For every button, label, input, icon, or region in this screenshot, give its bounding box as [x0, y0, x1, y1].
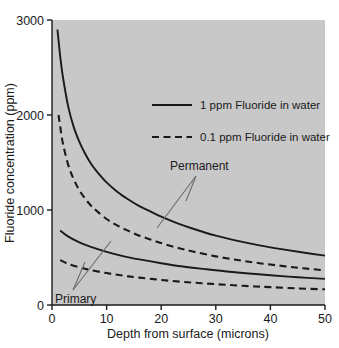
- annotation-primary: Primary: [55, 292, 96, 306]
- figure-container: 0100020003000 01020304050 Permanent Prim…: [0, 0, 339, 348]
- y-tick-label: 1000: [16, 204, 44, 218]
- y-tick-label: 0: [37, 299, 44, 313]
- x-tick-label: 10: [100, 312, 114, 326]
- annotation-permanent: Permanent: [170, 159, 229, 173]
- x-axis-title: Depth from surface (microns): [107, 327, 269, 341]
- x-axis-tick-labels: 01020304050: [49, 312, 332, 326]
- y-tick-label: 2000: [16, 109, 44, 123]
- x-tick-label: 40: [263, 312, 277, 326]
- legend-label-01ppm: 0.1 ppm Fluoride in water: [200, 131, 330, 143]
- y-axis-ticks: [47, 20, 52, 305]
- legend-label-1ppm: 1 ppm Fluoride in water: [200, 99, 320, 111]
- x-tick-label: 20: [154, 312, 168, 326]
- x-tick-label: 50: [318, 312, 332, 326]
- y-tick-label: 3000: [16, 14, 44, 28]
- x-tick-label: 0: [49, 312, 56, 326]
- x-tick-label: 30: [209, 312, 223, 326]
- y-axis-tick-labels: 0100020003000: [16, 14, 44, 313]
- fluoride-concentration-chart: 0100020003000 01020304050 Permanent Prim…: [0, 0, 339, 348]
- y-axis-title: Fluoride concentration (ppm): [3, 83, 17, 243]
